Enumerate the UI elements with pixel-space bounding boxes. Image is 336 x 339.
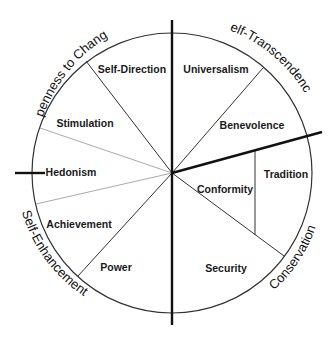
label-openness-to-change: Openness to Change [0,0,110,118]
label-security: Security [205,262,247,274]
thick-axis-right [172,132,322,173]
label-tradition: Tradition [264,168,308,180]
label-conformity: Conformity [197,183,253,195]
label-achievement: Achievement [46,218,112,230]
label-stimulation: Stimulation [56,117,113,129]
label-benevolence: Benevolence [220,119,285,131]
label-self-direction: Self-Direction [98,63,166,75]
value-circle-diagram: Self-Direction Universalism Stimulation … [0,0,336,339]
label-conservation: Conservation [266,223,319,293]
label-hedonism: Hedonism [46,166,97,178]
label-universalism: Universalism [183,63,248,75]
label-power: Power [100,261,132,273]
